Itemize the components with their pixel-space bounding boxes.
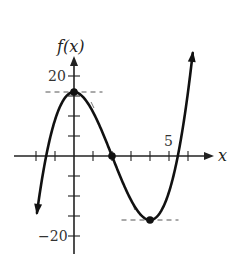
function-graph: f(x) x 20 −20 5 — [0, 0, 244, 263]
x-tick-label-5: 5 — [164, 133, 173, 149]
y-tick-label-neg20: −20 — [38, 228, 68, 244]
point-local-minimum — [146, 216, 154, 224]
y-tick-label-20: 20 — [48, 68, 66, 84]
point-local-maximum — [70, 88, 78, 96]
y-axis-label: f(x) — [56, 37, 84, 56]
y-axis-arrow-icon — [70, 56, 78, 66]
point-root — [108, 152, 116, 160]
x-axis-arrow-icon — [204, 152, 214, 160]
x-axis-label: x — [218, 146, 227, 165]
